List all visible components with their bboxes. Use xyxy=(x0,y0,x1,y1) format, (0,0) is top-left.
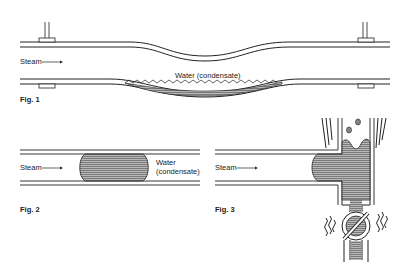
pipe-top-inner xyxy=(20,47,390,61)
water-waves xyxy=(125,80,277,83)
water-label-line1: Water xyxy=(156,158,176,167)
water-hammer-slug xyxy=(312,139,370,200)
water-slug xyxy=(80,154,149,181)
steam-label: Steam xyxy=(20,57,42,66)
flange-left-bottom xyxy=(39,84,55,88)
water-label: Water (condensate) xyxy=(175,71,241,80)
flange-left-top xyxy=(39,38,55,42)
droplet xyxy=(356,119,361,125)
figure-3: Steam Fig. 3 xyxy=(215,118,388,262)
figure-1: Steam Water (condensate) Fig. 1 xyxy=(20,22,390,104)
condensate-pool xyxy=(125,82,282,96)
steam-label: Steam xyxy=(20,163,42,172)
figure-caption: Fig. 3 xyxy=(215,205,235,214)
figure-2: Steam Water (condensate) Fig. 2 xyxy=(20,150,200,214)
steam-condensate-diagram: Steam Water (condensate) Fig. 1 Steam Wa… xyxy=(0,0,410,270)
droplet xyxy=(347,127,352,133)
figure-caption: Fig. 1 xyxy=(20,95,40,104)
pipe-bottom-inner xyxy=(20,79,390,92)
flange-right-top xyxy=(358,38,374,42)
flange-right-bottom xyxy=(358,84,374,88)
water-label-line2: (condensate) xyxy=(156,167,200,176)
pipe-top-outer xyxy=(20,42,390,56)
figure-caption: Fig. 2 xyxy=(20,205,40,214)
steam-label: Steam xyxy=(215,163,237,172)
